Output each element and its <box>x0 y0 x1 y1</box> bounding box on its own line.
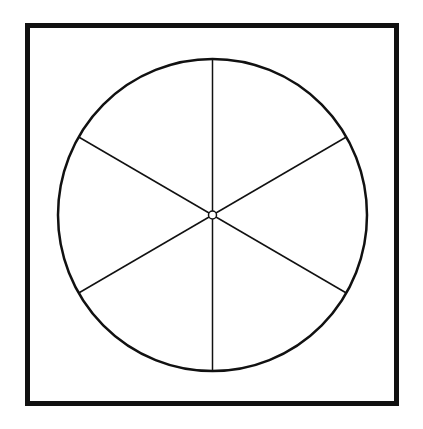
divided-circle-diagram <box>0 0 423 429</box>
spoke-300deg <box>79 137 213 215</box>
spoke-60deg <box>213 137 347 215</box>
spoke-120deg <box>213 215 347 293</box>
center-hub <box>209 211 217 219</box>
spoke-240deg <box>79 215 213 293</box>
